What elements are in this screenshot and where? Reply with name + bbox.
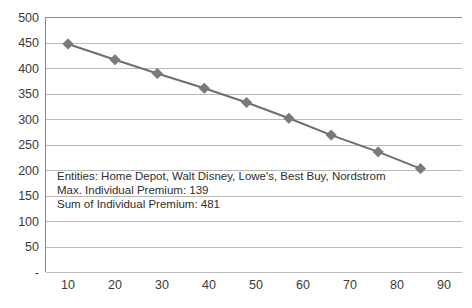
y-tick-label: 100 [18,215,39,229]
x-tick-label: 10 [61,278,75,292]
x-tick-label: 30 [155,278,169,292]
y-tick-label: 350 [18,87,39,101]
x-axis-tick-labels: 102030405060708090 [61,278,451,292]
y-tick-label: 200 [18,164,39,178]
chart-container: 50045040035030025020015010050- 102030405… [0,0,472,308]
y-tick-label: 500 [18,11,39,25]
line-chart: 50045040035030025020015010050- 102030405… [0,0,472,308]
y-tick-label: 50 [25,240,39,254]
x-tick-label: 80 [390,278,404,292]
y-tick-label: 150 [18,189,39,203]
y-tick-label: 400 [18,62,39,76]
x-tick-label: 70 [343,278,357,292]
y-tick-label: - [35,266,39,280]
annotation-max-premium: Max. Individual Premium: 139 [57,184,208,196]
x-tick-label: 60 [296,278,310,292]
y-tick-label: 250 [18,138,39,152]
annotation-sum-premium: Sum of Individual Premium: 481 [57,198,220,210]
x-tick-label: 40 [202,278,216,292]
y-tick-label: 300 [18,113,39,127]
annotation-entities: Entities: Home Depot, Walt Disney, Lowe'… [57,170,386,182]
x-tick-label: 20 [108,278,122,292]
x-tick-label: 90 [437,278,451,292]
x-tick-label: 50 [249,278,263,292]
y-tick-label: 450 [18,36,39,50]
